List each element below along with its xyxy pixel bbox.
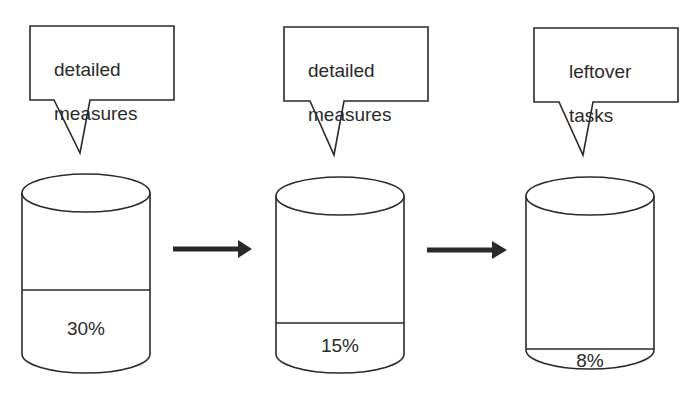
callout-2-text: detailed measures [308,38,391,148]
callout-2-line2: measures [308,104,391,126]
callout-1-text: detailed measures [54,37,137,147]
callout-2-line1: detailed [308,60,391,82]
callout-1-line1: detailed [54,59,137,81]
fill-percent-3: 8% [576,350,603,372]
fill-percent-1: 30% [67,318,105,340]
cylinder-1 [22,174,150,373]
callout-3-text: leftover tasks [569,39,631,149]
arrow-right-icon-1 [173,240,252,258]
fill-percent-2: 15% [321,335,359,357]
cylinder-3 [526,177,654,369]
callout-1-line2: measures [54,103,137,125]
arrow-right-icon-2 [427,241,507,259]
callout-3-line1: leftover [569,61,631,83]
callout-3-line2: tasks [569,105,631,127]
